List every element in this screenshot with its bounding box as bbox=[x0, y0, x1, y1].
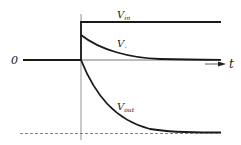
v-in-curve bbox=[81, 22, 221, 60]
v-in-label: Vin bbox=[117, 9, 130, 21]
zero-label: 0 bbox=[11, 54, 18, 67]
waveform-diagram: 0 t Vin V– Vout bbox=[0, 0, 241, 145]
v-minus-curve bbox=[81, 35, 221, 60]
time-arrow-icon bbox=[218, 62, 226, 67]
v-out-label: Vout bbox=[117, 101, 135, 113]
v-minus-label: V– bbox=[117, 38, 127, 50]
time-label: t bbox=[229, 57, 234, 71]
v-out-curve bbox=[81, 60, 221, 133]
